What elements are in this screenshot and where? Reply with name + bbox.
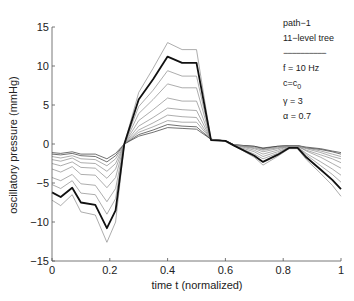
y-tick-label: −15 <box>30 255 49 267</box>
x-tick-label: 0 <box>49 264 55 276</box>
x-tick-label: 0.6 <box>218 264 233 276</box>
legend-alpha: α = 0.7 <box>283 109 334 124</box>
legend-annotation: path−1 11−level tree −−−−−−−−−− f = 10 H… <box>283 16 334 124</box>
y-tick-label: 0 <box>43 138 49 150</box>
series-line <box>52 128 341 159</box>
legend-frequency: f = 10 Hz <box>283 61 334 76</box>
y-tick-label: 5 <box>43 99 49 111</box>
y-tick-label: −5 <box>36 177 49 189</box>
legend-gamma: γ = 3 <box>283 94 334 109</box>
x-axis-label: time t (normalized) <box>151 279 242 291</box>
y-tick-label: −10 <box>30 216 49 228</box>
y-tick-label: 10 <box>37 60 49 72</box>
legend-separator: −−−−−−−−−− <box>283 46 334 61</box>
x-tick-label: 0.8 <box>276 264 291 276</box>
legend-wave-speed: c=c0 <box>283 76 334 94</box>
x-tick-label: 0.4 <box>160 264 175 276</box>
legend-tree: 11−level tree <box>283 31 334 46</box>
y-axis-label: oscillatory pressure (mmHg) <box>7 76 19 214</box>
x-tick-label: 0.2 <box>102 264 117 276</box>
series-line <box>52 125 341 162</box>
y-tick-label: 15 <box>37 21 49 33</box>
x-tick-label: 1 <box>338 264 344 276</box>
series-line <box>52 121 341 166</box>
legend-path: path−1 <box>283 16 334 31</box>
